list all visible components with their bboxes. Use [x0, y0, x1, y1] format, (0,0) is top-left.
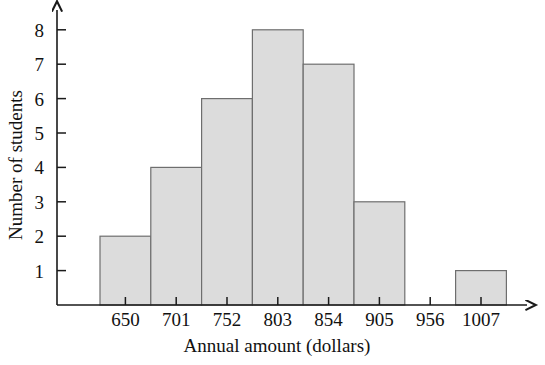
y-axis-tick-label: 1	[35, 261, 45, 282]
x-axis-tick-label: 1007	[462, 309, 500, 330]
y-axis-tick-label: 8	[35, 20, 45, 41]
x-axis-tick-label: 854	[314, 309, 343, 330]
x-axis-tick-label: 650	[111, 309, 140, 330]
bars-group	[100, 30, 506, 305]
histogram-bar	[151, 167, 202, 305]
histogram-bar	[354, 202, 405, 305]
histogram-figure: 12345678 6507017528038549059561007 Annua…	[0, 0, 545, 365]
y-axis-tick-label: 6	[35, 89, 45, 110]
histogram-bar	[202, 99, 253, 305]
y-axis-tick-label: 3	[35, 192, 45, 213]
x-axis-title: Annual amount (dollars)	[184, 335, 371, 357]
histogram-svg: 12345678 6507017528038549059561007 Annua…	[0, 0, 545, 365]
y-axis-tick-label: 5	[35, 123, 45, 144]
histogram-bar	[252, 30, 303, 305]
y-axis-tick-label: 4	[35, 157, 45, 178]
y-axis-tick-label: 2	[35, 226, 45, 247]
histogram-bar	[100, 236, 151, 305]
x-axis-tick-label: 905	[365, 309, 394, 330]
y-axis-title: Number of students	[5, 90, 26, 240]
y-axis-tick-label: 7	[35, 54, 45, 75]
x-axis-tick-label: 956	[416, 309, 445, 330]
x-axis-tick-label: 752	[213, 309, 242, 330]
x-axis-tick-label: 803	[264, 309, 293, 330]
histogram-bar	[303, 64, 354, 305]
y-axis-ticks-group: 12345678	[35, 20, 67, 282]
x-axis-tick-label: 701	[162, 309, 191, 330]
